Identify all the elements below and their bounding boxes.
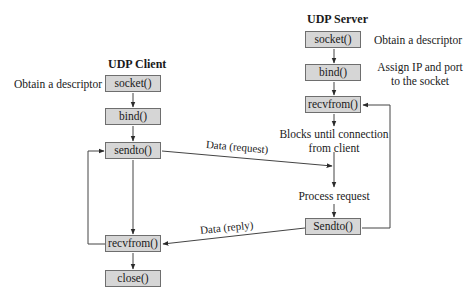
client-socket-annotation: Obtain a descriptor bbox=[14, 77, 102, 91]
client-recvfrom-box: recvfrom() bbox=[105, 235, 161, 252]
server-blocks-annotation: Blocks until connection from client bbox=[274, 127, 394, 155]
server-sendto-box: Sendto() bbox=[305, 218, 361, 235]
server-bind-box: bind() bbox=[305, 64, 361, 81]
client-bind-box: bind() bbox=[105, 108, 161, 125]
client-socket-box: socket() bbox=[105, 75, 161, 92]
server-bind-annotation-line2: to the socket bbox=[372, 74, 468, 88]
client-close-box: close() bbox=[105, 270, 161, 287]
arrow-server-loop bbox=[362, 105, 390, 228]
server-blocks-annotation-line1: Blocks until connection bbox=[274, 127, 394, 141]
client-sendto-box: sendto() bbox=[105, 142, 161, 159]
arrow-client-loop bbox=[88, 151, 105, 244]
client-title: UDP Client bbox=[108, 57, 166, 72]
server-bind-annotation-line1: Assign IP and port bbox=[372, 60, 468, 74]
server-bind-annotation: Assign IP and port to the socket bbox=[372, 60, 468, 88]
server-blocks-annotation-line2: from client bbox=[274, 141, 394, 155]
server-title: UDP Server bbox=[307, 12, 368, 27]
server-recvfrom-box: recvfrom() bbox=[305, 96, 361, 113]
server-socket-box: socket() bbox=[305, 31, 361, 48]
server-process-annotation: Process request bbox=[284, 189, 384, 203]
server-socket-annotation: Obtain a descriptor bbox=[374, 33, 462, 47]
